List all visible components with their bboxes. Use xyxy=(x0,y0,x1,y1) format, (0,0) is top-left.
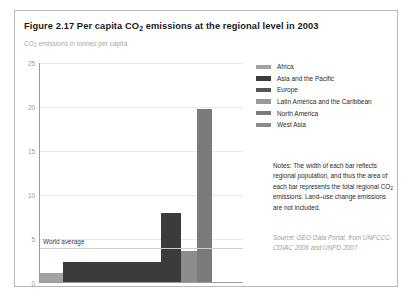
legend-swatch-icon xyxy=(256,76,271,81)
figure-subtitle-suffix: emissions in tonnes per capita xyxy=(37,40,128,47)
legend-item-label: North America xyxy=(277,110,318,117)
world-average-label: World average xyxy=(43,238,84,245)
legend-swatch-icon xyxy=(256,65,271,70)
y-axis-tick-label: 0 xyxy=(31,280,35,287)
chart-plot-area: 0510152025 World average xyxy=(39,63,243,283)
gridline xyxy=(40,107,243,108)
world-average-line xyxy=(40,248,243,249)
figure-title-subscript: 2 xyxy=(139,25,143,32)
chart-bar xyxy=(197,109,212,282)
legend-item-label: Latin America and the Caribbean xyxy=(277,98,372,105)
legend-item-label: Africa xyxy=(277,63,294,70)
figure-panel: Figure 2.17 Per capita CO2 emissions at … xyxy=(14,10,398,287)
figure-subtitle: CO2 emissions in tonnes per capita xyxy=(24,40,127,47)
legend-swatch-icon xyxy=(256,111,271,116)
legend-item-label: Asia and the Pacific xyxy=(277,75,334,82)
y-axis-tick-label: 25 xyxy=(28,60,35,67)
figure-notes: Notes: The width of each bar reflects re… xyxy=(273,161,395,213)
chart-bar xyxy=(63,262,143,282)
y-axis-tick-label: 20 xyxy=(28,104,35,111)
y-axis-line xyxy=(39,63,40,283)
figure-source: Source: GEO Data Portal, from UNFCCC-CDI… xyxy=(273,233,395,254)
chart-bar xyxy=(143,262,161,282)
x-axis-line xyxy=(39,282,243,283)
legend-item[interactable]: Asia and the Pacific xyxy=(256,73,391,85)
legend-swatch-icon xyxy=(256,88,271,93)
y-axis-tick-label: 10 xyxy=(28,192,35,199)
figure-subtitle-prefix: CO xyxy=(24,40,34,47)
legend-item-label: Europe xyxy=(277,86,298,93)
chart-bar xyxy=(181,251,197,282)
figure-title-prefix: Figure 2.17 Per capita CO xyxy=(24,21,139,31)
y-axis-tick-label: 5 xyxy=(31,236,35,243)
figure-title: Figure 2.17 Per capita CO2 emissions at … xyxy=(24,21,319,31)
legend-item[interactable]: North America xyxy=(256,107,391,119)
chart-legend: AfricaAsia and the PacificEuropeLatin Am… xyxy=(256,61,391,131)
chart-bar xyxy=(40,273,63,282)
figure-notes-text-after: emissions. Land–use change emissions are… xyxy=(273,193,386,210)
legend-swatch-icon xyxy=(256,123,271,128)
legend-item[interactable]: Africa xyxy=(256,61,391,73)
figure-notes-text-before: Notes: The width of each bar reflects re… xyxy=(273,162,390,190)
legend-item[interactable]: Europe xyxy=(256,84,391,96)
legend-item-label: West Asia xyxy=(277,121,306,128)
legend-item[interactable]: Latin America and the Caribbean xyxy=(256,96,391,108)
figure-title-suffix: emissions at the regional level in 2003 xyxy=(143,21,319,31)
figure-subtitle-subscript: 2 xyxy=(34,42,37,48)
figure-notes-subscript: 2 xyxy=(390,185,393,191)
legend-item[interactable]: West Asia xyxy=(256,119,391,131)
gridline xyxy=(40,63,243,64)
y-axis-tick-label: 15 xyxy=(28,148,35,155)
gridline xyxy=(40,195,243,196)
legend-swatch-icon xyxy=(256,99,271,104)
gridline xyxy=(40,151,243,152)
